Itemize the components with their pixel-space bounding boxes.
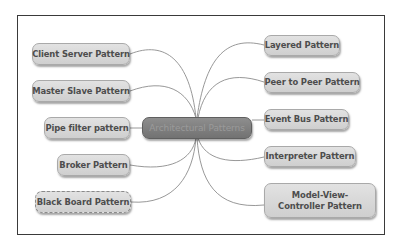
node-interpreter-pattern[interactable]: Interpreter Pattern xyxy=(264,146,356,167)
node-label: Layered Pattern xyxy=(265,40,339,51)
link-interpreter xyxy=(198,138,264,161)
node-model-view-controller-pattern[interactable]: Model-View-Controller Pattern xyxy=(264,183,376,218)
link-peer-to-peer xyxy=(198,78,264,119)
mind-map-canvas: Architectural Patterns Client Server Pat… xyxy=(0,0,400,248)
link-broker xyxy=(130,138,196,167)
link-client-server xyxy=(130,50,196,118)
node-label: Model-View-Controller Pattern xyxy=(271,190,369,212)
node-label: Pipe filter pattern xyxy=(45,123,128,134)
link-master-slave xyxy=(130,86,196,118)
node-label: Event Bus Pattern xyxy=(265,114,349,125)
node-peer-to-peer-pattern[interactable]: Peer to Peer Pattern xyxy=(264,72,360,93)
node-pipe-filter-pattern[interactable]: Pipe filter pattern xyxy=(44,117,130,139)
central-topic-node[interactable]: Architectural Patterns xyxy=(142,117,252,139)
link-mvc xyxy=(197,138,264,206)
node-label: Master Slave Pattern xyxy=(32,86,130,97)
link-black-board xyxy=(131,138,196,202)
node-broker-pattern[interactable]: Broker Pattern xyxy=(57,154,130,176)
node-master-slave-pattern[interactable]: Master Slave Pattern xyxy=(32,80,130,102)
central-topic-label: Architectural Patterns xyxy=(149,123,245,134)
node-event-bus-pattern[interactable]: Event Bus Pattern xyxy=(264,109,349,130)
node-label: Peer to Peer Pattern xyxy=(264,77,359,88)
link-layered xyxy=(197,43,264,118)
node-client-server-pattern[interactable]: Client Server Pattern xyxy=(32,43,130,65)
node-label: Client Server Pattern xyxy=(32,49,130,60)
node-black-board-pattern[interactable]: Black Board Pattern xyxy=(35,191,131,213)
node-label: Black Board Pattern xyxy=(37,197,130,208)
node-label: Interpreter Pattern xyxy=(266,151,355,162)
node-layered-pattern[interactable]: Layered Pattern xyxy=(264,35,340,56)
node-label: Broker Pattern xyxy=(59,160,127,171)
